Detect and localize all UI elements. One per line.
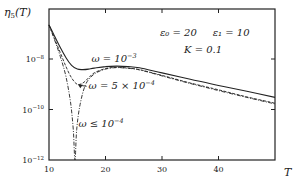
parameter-k: K = 0.1 [183,44,222,55]
y-tick-label: 10−8 [26,54,45,65]
annotations: ω = 10−3ω = 5 × 10−4ω ≤ 10−4 [78,52,155,130]
annotation-label-1: ω = 5 × 10−4 [89,79,155,91]
annotation-label-0: ω = 10−3 [91,52,136,64]
tick-labels: 1020304010−810−1010−12 [22,54,223,175]
y-tick-label: 10−12 [22,155,44,166]
x-axis-label: T [284,166,293,179]
y-tick-label: 10−10 [22,104,44,115]
y-axis-label: η5(T) [4,6,31,20]
arrowhead-icon [78,84,83,88]
x-tick-label: 30 [157,165,167,174]
chart: η5(T) T 1020304010−810−1010−12 ω = 10−3ω… [0,0,300,180]
curve-dash-dot [49,25,275,160]
data-curves [49,25,275,160]
x-tick-label: 20 [100,165,110,174]
x-tick-label: 10 [44,165,54,174]
parameter-eps: ε₀ = 20 ε₁ = 10 [160,27,250,38]
annotation-label-2: ω ≤ 10−4 [78,117,123,129]
x-tick-label: 40 [213,165,223,174]
